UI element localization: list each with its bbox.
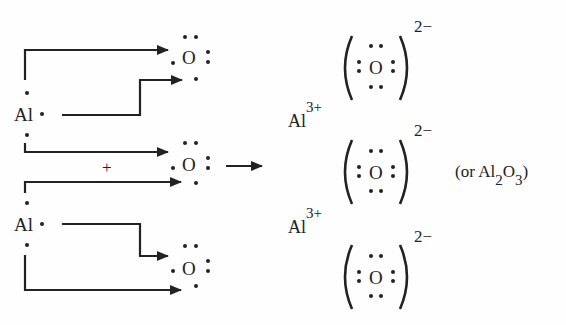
o-atom-3: O bbox=[171, 244, 210, 288]
svg-text:2−: 2− bbox=[414, 17, 432, 36]
svg-text:Al: Al bbox=[288, 111, 306, 131]
svg-text:O: O bbox=[182, 154, 196, 175]
arrow-al1-to-o1-top bbox=[25, 50, 168, 80]
svg-text:2−: 2− bbox=[414, 227, 432, 246]
svg-text:Al: Al bbox=[14, 104, 33, 125]
svg-text:O: O bbox=[369, 162, 383, 183]
svg-text:Al: Al bbox=[288, 217, 306, 237]
svg-text:Al: Al bbox=[14, 214, 33, 235]
svg-text:2−: 2− bbox=[414, 121, 432, 140]
o-atom-2: O bbox=[171, 141, 210, 185]
arrow-al1-to-o2-bottom bbox=[25, 143, 168, 152]
electron-transfer-arrows bbox=[25, 50, 262, 290]
plus-sign: + bbox=[102, 158, 112, 177]
oxide-ion-3: O 2− bbox=[345, 227, 432, 309]
svg-text:O: O bbox=[369, 57, 383, 78]
svg-text:(or Al2O3): (or Al2O3) bbox=[455, 162, 528, 188]
o-atom-1: O bbox=[171, 35, 210, 81]
svg-text:O: O bbox=[182, 258, 196, 279]
svg-text:3+: 3+ bbox=[306, 99, 322, 115]
arrow-al1-to-o1-right bbox=[62, 80, 182, 115]
oxide-ion-2: O 2− bbox=[345, 121, 432, 204]
al-cation-1: Al 3+ bbox=[288, 99, 322, 131]
arrow-al2-to-o3-bottom bbox=[25, 255, 181, 290]
al-cation-2: Al 3+ bbox=[288, 205, 322, 237]
formula-note: (or Al2O3) bbox=[455, 162, 528, 188]
arrow-al2-to-o2-top bbox=[25, 182, 181, 193]
arrow-al2-to-o3-right bbox=[62, 224, 168, 256]
svg-text:3+: 3+ bbox=[306, 205, 322, 221]
svg-text:O: O bbox=[369, 267, 383, 288]
al-atom-2: Al bbox=[14, 201, 44, 247]
svg-text:O: O bbox=[182, 47, 196, 68]
oxide-ion-1: O 2− bbox=[345, 17, 432, 100]
lewis-diagram: Al Al + O O O O bbox=[0, 0, 566, 325]
al-atom-1: Al bbox=[14, 91, 44, 137]
